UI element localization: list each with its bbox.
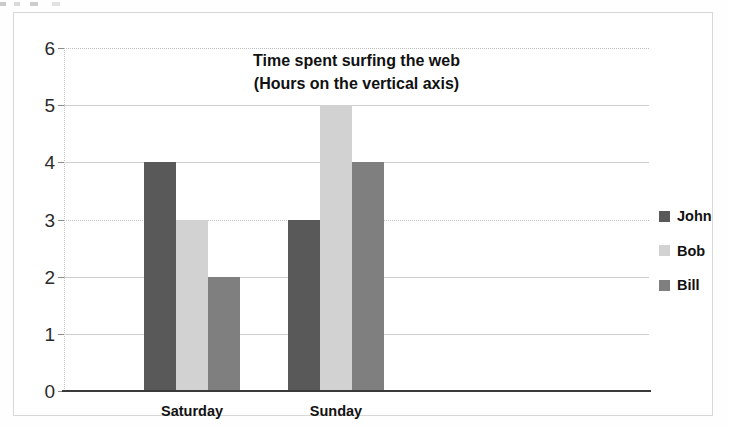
bar-bill-sunday (352, 162, 384, 391)
legend-item-john[interactable]: John (659, 209, 712, 224)
bar-john-sunday (288, 220, 320, 392)
x-axis-line (62, 390, 651, 392)
bar-bill-saturday (208, 277, 240, 391)
y-axis-tick-2 (58, 277, 64, 278)
scan-artifact (0, 2, 200, 6)
legend-swatch-john (659, 211, 670, 222)
y-axis-label-2: 2 (25, 267, 55, 286)
y-axis-label-1: 1 (25, 324, 55, 343)
gridline-6 (64, 48, 649, 49)
legend-label-bill: Bill (677, 278, 700, 293)
plot-area: 6543210SaturdaySunday (64, 48, 649, 391)
gridline-5 (64, 105, 649, 106)
x-axis-label-saturday: Saturday (161, 403, 223, 419)
y-axis-label-0: 0 (25, 382, 55, 401)
y-axis-tick-1 (58, 334, 64, 335)
bar-bob-saturday (176, 220, 208, 392)
legend-swatch-bob (659, 245, 670, 256)
legend-item-bob[interactable]: Bob (659, 244, 712, 259)
y-axis-tick-6 (58, 48, 64, 49)
y-axis-tick-5 (58, 105, 64, 106)
y-axis-label-4: 4 (25, 153, 55, 172)
y-axis-label-6: 6 (25, 39, 55, 58)
legend-label-bob: Bob (677, 244, 705, 259)
y-axis-label-5: 5 (25, 96, 55, 115)
bar-john-saturday (144, 162, 176, 391)
chart-legend: JohnBobBill (659, 209, 712, 313)
x-axis-label-sunday: Sunday (310, 403, 362, 419)
y-axis-tick-4 (58, 162, 64, 163)
legend-swatch-bill (659, 280, 670, 291)
y-axis-label-3: 3 (25, 210, 55, 229)
plot-inner: 6543210SaturdaySunday (64, 48, 649, 391)
legend-item-bill[interactable]: Bill (659, 278, 712, 293)
chart-frame: Time spent surfing the web (Hours on the… (13, 12, 713, 416)
y-axis-tick-3 (58, 220, 64, 221)
chart-container: Time spent surfing the web (Hours on the… (0, 0, 729, 427)
legend-label-john: John (677, 209, 712, 224)
bar-bob-sunday (320, 105, 352, 391)
